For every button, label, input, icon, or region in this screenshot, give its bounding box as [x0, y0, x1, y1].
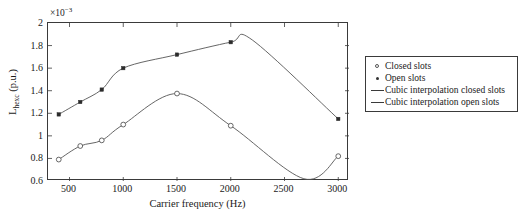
y-axis-title-subscript: hexc: [12, 94, 21, 108]
legend-item[interactable]: Cubic interpolation closed slots: [369, 84, 513, 96]
data-point-marker: [229, 40, 232, 43]
dot-icon: [376, 77, 379, 80]
x-tick-label: 3000: [327, 183, 347, 194]
data-point-marker: [337, 117, 340, 120]
y-axis-title: Lhexc (p.u.): [7, 32, 21, 152]
plot-svg: [48, 23, 349, 181]
data-point-marker: [57, 113, 60, 116]
data-point-marker: [56, 157, 61, 162]
legend-item[interactable]: Open slots: [369, 72, 513, 84]
figure-chart: ×10−3 0.60.811.21.41.61.82 5001000150020…: [0, 0, 525, 224]
x-tick-label: 500: [61, 183, 76, 194]
legend-filled-dot-icon: [369, 72, 385, 84]
legend: Closed slotsOpen slotsCubic interpolatio…: [365, 56, 518, 112]
x-tick-label: 2000: [220, 183, 240, 194]
y-axis-title-base: L: [7, 109, 18, 115]
circle-icon: [375, 64, 379, 68]
legend-item[interactable]: Closed slots: [369, 60, 513, 72]
series-line-open-slots: [59, 34, 339, 119]
x-tick-label: 2500: [274, 183, 294, 194]
data-point-marker: [228, 123, 233, 128]
x-tick-label: 1500: [166, 183, 186, 194]
legend-label: Cubic interpolation closed slots: [385, 84, 505, 96]
data-point-marker: [100, 88, 103, 91]
data-point-marker: [79, 100, 82, 103]
line-icon: [371, 90, 384, 91]
series-line-closed-slots: [59, 94, 339, 180]
x-axis-title: Carrier frequency (Hz): [47, 198, 348, 209]
x-tick-label: 1000: [112, 183, 132, 194]
data-point-marker: [121, 122, 126, 127]
legend-label: Cubic interpolation open slots: [385, 96, 499, 108]
data-point-marker: [99, 138, 104, 143]
plot-area: [47, 22, 348, 180]
y-axis-title-unit: (p.u.): [7, 69, 18, 94]
data-point-marker: [175, 53, 178, 56]
legend-line-icon: [369, 96, 385, 108]
legend-line-icon: [369, 84, 385, 96]
legend-open-circle-icon: [369, 60, 385, 72]
legend-label: Closed slots: [385, 60, 431, 72]
data-point-marker: [122, 66, 125, 69]
data-point-marker: [78, 144, 83, 149]
legend-label: Open slots: [385, 72, 425, 84]
line-icon: [371, 102, 384, 103]
data-point-marker: [175, 91, 180, 96]
data-point-marker: [336, 154, 341, 159]
legend-item[interactable]: Cubic interpolation open slots: [369, 96, 513, 108]
